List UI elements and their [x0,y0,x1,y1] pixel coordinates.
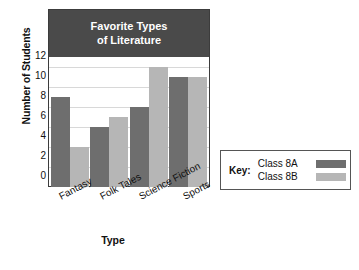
chart-title-line-1: Favorite Types [91,20,168,34]
y-tick-label: 0 [30,171,46,181]
bar-group [51,67,89,187]
y-tick-label: 6 [30,111,46,121]
plot-box: Favorite Types of Literature [48,9,210,187]
legend-swatch-icon [316,173,346,181]
y-tick-label: 10 [30,71,46,81]
bar-chart-figure: Number of Students 12 10 8 6 4 2 0 Favor… [0,0,225,270]
legend-label: Class 8A [258,158,310,169]
bar-class-8a [51,97,70,187]
bar-group [130,67,168,187]
bar-group [90,67,128,187]
legend-entries: Class 8A Class 8B [258,158,346,182]
legend-label: Class 8B [258,171,310,182]
y-axis-tick-labels: 12 10 8 6 4 2 0 [28,56,46,187]
bar-class-8a [90,127,109,187]
legend-row-class-8b: Class 8B [258,171,346,182]
y-tick-label: 12 [30,51,46,61]
y-tick-label: 4 [30,131,46,141]
x-axis-title: Type [48,234,178,246]
chart-title-line-2: of Literature [97,34,161,48]
y-tick-label: 8 [30,91,46,101]
legend-key-box: Key: Class 8A Class 8B [220,150,351,190]
y-tick-label: 2 [30,151,46,161]
legend-swatch-icon [316,160,346,168]
legend-row-class-8a: Class 8A [258,158,346,169]
legend-title: Key: [229,165,251,176]
chart-title-banner: Favorite Types of Literature [49,10,209,57]
bar-class-8b [149,67,168,187]
